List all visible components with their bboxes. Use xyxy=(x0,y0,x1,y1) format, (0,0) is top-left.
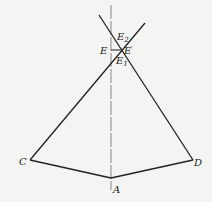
label-eprime: E′ xyxy=(123,45,133,56)
label-d: D xyxy=(193,157,202,168)
line-e2-d xyxy=(99,15,193,160)
label-e: E xyxy=(99,45,108,56)
label-e2: E2 xyxy=(116,31,129,44)
label-c: C xyxy=(19,156,27,167)
segment-ad xyxy=(111,160,193,178)
geometry-diagram: E2 E E′ E1 C D A xyxy=(0,0,212,202)
label-a: A xyxy=(112,184,120,195)
segment-ca xyxy=(30,160,111,178)
